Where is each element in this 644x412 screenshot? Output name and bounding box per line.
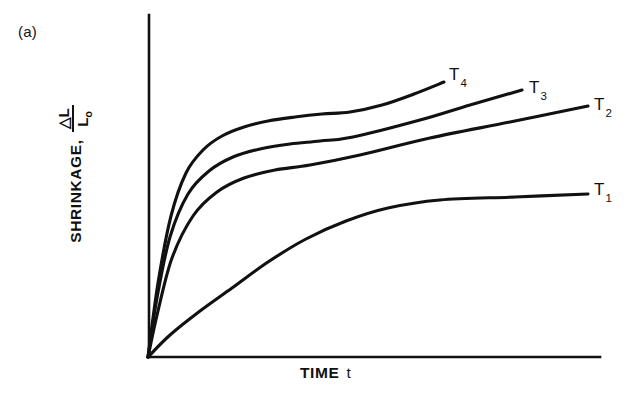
series-label-T1-base: T [594, 180, 604, 199]
series-curve-T2 [148, 106, 588, 357]
series-label-T1-subscript: 1 [605, 192, 611, 204]
series-curves [148, 82, 588, 357]
series-label-T3-subscript: 3 [540, 90, 546, 102]
series-label-T1: T1 [594, 181, 611, 202]
x-axis-label: TIMEt [300, 364, 351, 382]
series-label-T4-base: T [449, 65, 459, 84]
series-label-T2: T2 [594, 96, 611, 117]
series-label-T2-subscript: 2 [605, 107, 611, 119]
series-label-T4-subscript: 4 [460, 77, 466, 89]
axis-lines [148, 15, 600, 357]
series-label-T4: T4 [449, 66, 466, 87]
series-label-T3-base: T [529, 78, 539, 97]
series-label-T3: T3 [529, 79, 546, 100]
panel-label: (a) [18, 23, 37, 40]
chart-plot-area [0, 0, 644, 412]
series-curve-T1 [148, 194, 588, 357]
x-axis-label-text: TIME [300, 364, 339, 381]
figure-root: (a) SHRINKAGE, △L Lo TIMEt T4 T3 T2 T1 [0, 0, 644, 412]
x-axis-label-variable: t [346, 364, 350, 381]
series-label-T2-base: T [594, 95, 604, 114]
